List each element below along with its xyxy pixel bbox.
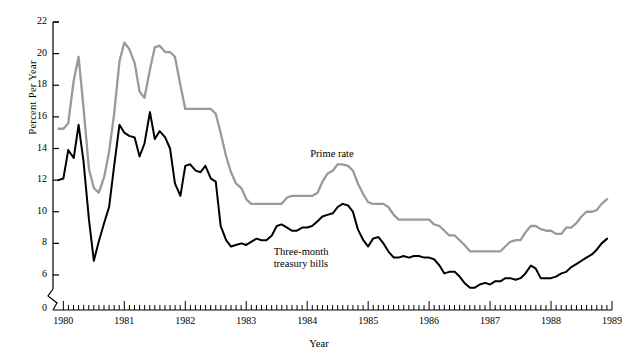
x-tick-label: 1989	[592, 315, 632, 326]
x-tick-label: 1986	[409, 315, 449, 326]
y-tick-label: 14	[21, 142, 47, 153]
y-tick-label: 10	[21, 205, 47, 216]
x-tick-label: 1982	[165, 315, 205, 326]
x-tick-label: 1980	[43, 315, 83, 326]
x-tick-label: 1983	[226, 315, 266, 326]
y-tick-label: 8	[21, 236, 47, 247]
x-axis-title: Year	[0, 338, 638, 349]
x-tick-label: 1987	[470, 315, 510, 326]
line-chart: Percent Per Year Year 68101214161820220 …	[0, 0, 638, 363]
series-line-2	[58, 112, 607, 288]
chart-canvas	[0, 0, 638, 363]
y-tick-label: 20	[21, 47, 47, 58]
x-tick-label: 1988	[531, 315, 571, 326]
y-tick-label: 22	[21, 15, 47, 26]
series-annotation-1: Prime rate	[310, 148, 353, 160]
y-axis-break	[48, 289, 57, 310]
y-tick-label: 6	[21, 268, 47, 279]
y-axis-zero-label: 0	[21, 302, 47, 313]
series-layer	[58, 43, 607, 288]
x-tick-label: 1985	[348, 315, 388, 326]
axes-layer	[48, 22, 612, 310]
y-tick-label: 12	[21, 173, 47, 184]
x-tick-label: 1984	[287, 315, 327, 326]
series-annotation-2: Three-month treasury bills	[274, 246, 329, 270]
y-tick-label: 18	[21, 78, 47, 89]
x-tick-label: 1981	[104, 315, 144, 326]
y-tick-label: 16	[21, 110, 47, 121]
